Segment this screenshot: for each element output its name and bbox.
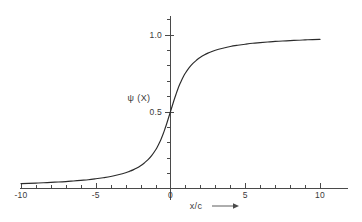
x-axis-direction-arrow [212, 203, 239, 209]
x-tick-label: 0 [168, 190, 173, 200]
y-axis-major-ticks [165, 36, 174, 113]
y-axis-title: ψ (X) [128, 93, 151, 103]
x-tick-label: -5 [92, 190, 100, 200]
x-axis-tick-labels: -10-50510 [15, 190, 325, 200]
plot-canvas: -10-50510 0.51.0 ψ (X) x/c [0, 0, 362, 222]
y-axis-tick-labels: 0.51.0 [150, 30, 162, 117]
x-tick-label: 5 [243, 190, 248, 200]
x-tick-label: 10 [315, 190, 325, 200]
x-axis-title: x/c [190, 201, 203, 211]
x-tick-label: -10 [15, 190, 28, 200]
y-tick-label: 1.0 [150, 30, 162, 40]
chart-figure: -10-50510 0.51.0 ψ (X) x/c [0, 0, 362, 222]
y-tick-label: 0.5 [150, 107, 162, 117]
